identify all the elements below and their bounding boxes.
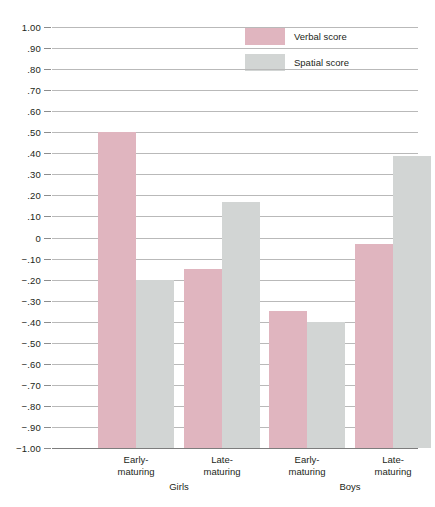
y-axis-tick-mark	[44, 48, 51, 49]
y-axis-tick-label: −.80	[0, 400, 41, 411]
bar-verbal	[269, 311, 307, 448]
x-axis-category-label: Late- maturing	[177, 454, 267, 477]
y-axis-tick-label: .90	[0, 43, 41, 54]
y-axis-tick-mark	[44, 301, 51, 302]
y-axis-tick-mark	[44, 132, 51, 133]
y-axis-tick-mark	[44, 343, 51, 344]
y-axis-tick-mark	[44, 259, 51, 260]
y-axis-tick-label: −.20	[0, 274, 41, 285]
y-axis-tick-label: .70	[0, 85, 41, 96]
y-axis-tick-mark	[44, 406, 51, 407]
gridline	[52, 90, 418, 91]
y-axis-tick-label: −.10	[0, 253, 41, 264]
y-axis-tick-label: .80	[0, 64, 41, 75]
y-axis-tick-mark	[44, 111, 51, 112]
y-axis-tick-label: .20	[0, 190, 41, 201]
y-axis-tick-label: −.40	[0, 316, 41, 327]
y-axis-tick-label: 1.00	[0, 22, 41, 33]
y-axis-tick-label: −.60	[0, 358, 41, 369]
x-axis-category-label: Late- maturing	[348, 454, 435, 477]
y-axis-tick-mark	[44, 364, 51, 365]
y-axis-tick-label: .60	[0, 106, 41, 117]
gridline	[52, 111, 418, 112]
y-axis-tick-mark	[44, 174, 51, 175]
x-axis-group-label: Boys	[305, 481, 395, 492]
y-axis-tick-label: 0	[0, 232, 41, 243]
y-axis-tick-mark	[44, 216, 51, 217]
bar-spatial	[136, 280, 174, 448]
y-axis-tick-mark	[44, 280, 51, 281]
y-axis-tick-label: .30	[0, 169, 41, 180]
x-axis-category-label: Early- maturing	[262, 454, 352, 477]
bar-verbal	[98, 132, 136, 448]
y-axis-tick-label: −1.00	[0, 443, 41, 454]
bar-spatial	[222, 202, 260, 448]
x-axis-category-label: Early- maturing	[91, 454, 181, 477]
y-axis-tick-mark	[44, 427, 51, 428]
y-axis-tick-label: .10	[0, 211, 41, 222]
gridline	[52, 448, 418, 449]
gridline	[52, 27, 418, 28]
y-axis-tick-mark	[44, 69, 51, 70]
y-axis-tick-mark	[44, 385, 51, 386]
x-axis-group-label: Girls	[134, 481, 224, 492]
bar-verbal	[355, 244, 393, 448]
y-axis-tick-mark	[44, 27, 51, 28]
gridline	[52, 69, 418, 70]
bar-spatial	[393, 156, 431, 448]
y-axis-tick-mark	[44, 322, 51, 323]
y-axis-tick-mark	[44, 448, 51, 449]
plot-area	[52, 27, 418, 448]
y-axis-tick-label: −.50	[0, 337, 41, 348]
y-axis-tick-mark	[44, 195, 51, 196]
y-axis-tick-label: −.90	[0, 421, 41, 432]
y-axis-tick-label: .40	[0, 148, 41, 159]
y-axis-tick-label: .50	[0, 127, 41, 138]
y-axis-tick-label: −.30	[0, 295, 41, 306]
y-axis-tick-mark	[44, 153, 51, 154]
bar-verbal	[184, 269, 222, 448]
y-axis-tick-mark	[44, 90, 51, 91]
gridline	[52, 48, 418, 49]
y-axis-tick-mark	[44, 238, 51, 239]
bar-spatial	[307, 322, 345, 448]
y-axis-tick-label: −.70	[0, 379, 41, 390]
